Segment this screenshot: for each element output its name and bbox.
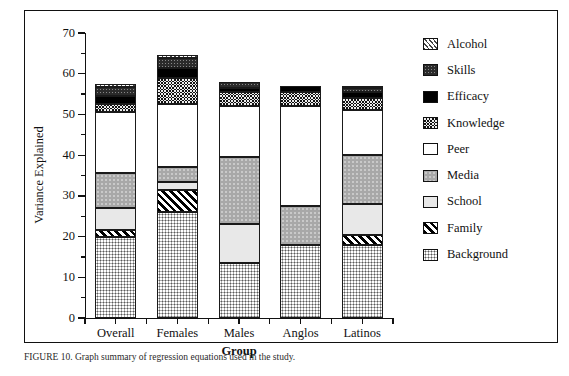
- bar-segment-males-skills[interactable]: [219, 82, 260, 88]
- legend-swatch-media-icon: [423, 170, 438, 182]
- y-tick-label-50: 50: [63, 108, 76, 121]
- legend-item-background[interactable]: Background: [423, 241, 553, 267]
- legend-label-family: Family: [447, 221, 482, 236]
- bar-segment-females-knowledge[interactable]: [157, 78, 198, 104]
- bar-segment-latinos-efficacy[interactable]: [342, 92, 383, 98]
- y-tick-label-10: 10: [63, 271, 76, 284]
- bar-segment-females-background[interactable]: [157, 212, 198, 318]
- bar-segment-overall-school[interactable]: [95, 208, 136, 230]
- legend-item-skills[interactable]: Skills: [423, 57, 553, 83]
- legend-swatch-background-icon: [423, 249, 438, 261]
- y-tick-label-70: 70: [63, 27, 76, 40]
- x-tick-label-latinos: Latinos: [343, 326, 381, 341]
- bar-segment-males-media[interactable]: [219, 157, 260, 224]
- y-axis-line: [85, 33, 86, 318]
- bar-segment-overall-efficacy[interactable]: [95, 96, 136, 104]
- bar-segment-latinos-media[interactable]: [342, 155, 383, 204]
- y-tick-70: [78, 32, 85, 33]
- y-tick-50: [78, 114, 85, 115]
- bar-segment-females-efficacy[interactable]: [157, 68, 198, 78]
- legend-swatch-peer-icon: [423, 143, 438, 155]
- bar-segment-anglos-media[interactable]: [280, 206, 321, 245]
- legend-label-background: Background: [447, 247, 508, 262]
- y-minor-tick-25: [81, 216, 85, 217]
- bar-latinos[interactable]: [342, 33, 383, 318]
- bar-segment-latinos-skills[interactable]: [342, 88, 383, 92]
- x-tick-label-males: Males: [224, 326, 255, 341]
- x-tick-females: [177, 318, 178, 324]
- bar-segment-latinos-knowledge[interactable]: [342, 98, 383, 110]
- bar-segment-overall-knowledge[interactable]: [95, 104, 136, 112]
- y-minor-tick-15: [81, 256, 85, 257]
- bar-segment-females-family[interactable]: [157, 190, 198, 212]
- y-tick-20: [78, 236, 85, 237]
- x-tick-males: [238, 318, 239, 324]
- bar-segment-anglos-efficacy[interactable]: [280, 86, 321, 92]
- legend-item-peer[interactable]: Peer: [423, 136, 553, 162]
- bar-segment-latinos-background[interactable]: [342, 245, 383, 318]
- bar-segment-overall-family[interactable]: [95, 230, 136, 236]
- y-minor-tick-45: [81, 134, 85, 135]
- legend-item-alcohol[interactable]: Alcohol: [423, 31, 553, 57]
- legend-label-alcohol: Alcohol: [447, 37, 487, 52]
- bar-segment-males-knowledge[interactable]: [219, 92, 260, 106]
- legend-label-media: Media: [447, 168, 479, 183]
- y-minor-tick-65: [81, 53, 85, 54]
- bar-segment-overall-alcohol[interactable]: [95, 84, 136, 87]
- bar-segment-overall-skills[interactable]: [95, 87, 136, 96]
- x-tick-overall: [115, 318, 116, 324]
- bar-segment-females-skills[interactable]: [157, 58, 198, 67]
- y-axis-title: Variance Explained: [32, 126, 47, 224]
- y-tick-label-0: 0: [69, 312, 75, 325]
- bar-segment-anglos-peer[interactable]: [280, 106, 321, 206]
- plot-area: Variance Explained Group 010203040506070…: [85, 33, 393, 318]
- bar-segment-overall-background[interactable]: [95, 237, 136, 318]
- bar-segment-latinos-family[interactable]: [342, 235, 383, 245]
- x-boundary-tick-2: [208, 318, 209, 324]
- bar-males[interactable]: [219, 33, 260, 318]
- bar-segment-latinos-school[interactable]: [342, 204, 383, 235]
- bar-overall[interactable]: [95, 33, 136, 318]
- legend-swatch-skills-icon: [423, 64, 438, 76]
- bar-segment-females-media[interactable]: [157, 167, 198, 181]
- chart-legend: AlcoholSkillsEfficacyKnowledgePeerMediaS…: [423, 31, 553, 268]
- y-tick-label-20: 20: [63, 230, 76, 243]
- x-boundary-tick-1: [146, 318, 147, 324]
- x-boundary-tick-5: [392, 318, 393, 324]
- legend-swatch-efficacy-icon: [423, 91, 438, 103]
- bar-segment-males-efficacy[interactable]: [219, 88, 260, 92]
- x-tick-anglos: [300, 318, 301, 324]
- bar-segment-males-background[interactable]: [219, 263, 260, 318]
- bar-females[interactable]: [157, 33, 198, 318]
- bar-segment-females-alcohol[interactable]: [157, 55, 198, 58]
- bar-segment-latinos-peer[interactable]: [342, 110, 383, 155]
- bar-segment-anglos-background[interactable]: [280, 245, 321, 318]
- bar-segment-females-peer[interactable]: [157, 104, 198, 167]
- legend-item-efficacy[interactable]: Efficacy: [423, 84, 553, 110]
- figure-frame: Variance Explained Group 010203040506070…: [24, 10, 558, 343]
- legend-swatch-family-icon: [423, 222, 438, 234]
- x-boundary-tick-4: [331, 318, 332, 324]
- y-tick-10: [78, 277, 85, 278]
- bar-segment-overall-peer[interactable]: [95, 112, 136, 173]
- y-minor-tick-5: [81, 297, 85, 298]
- bar-segment-overall-media[interactable]: [95, 173, 136, 208]
- legend-label-knowledge: Knowledge: [447, 116, 505, 131]
- bar-anglos[interactable]: [280, 33, 321, 318]
- legend-item-family[interactable]: Family: [423, 215, 553, 241]
- y-tick-30: [78, 195, 85, 196]
- y-minor-tick-55: [81, 93, 85, 94]
- bar-segment-males-peer[interactable]: [219, 106, 260, 157]
- bar-segment-latinos-alcohol[interactable]: [342, 86, 383, 88]
- x-tick-label-overall: Overall: [97, 326, 134, 341]
- y-minor-tick-35: [81, 175, 85, 176]
- legend-label-skills: Skills: [447, 63, 476, 78]
- bar-segment-males-school[interactable]: [219, 224, 260, 263]
- bar-segment-females-school[interactable]: [157, 182, 198, 190]
- legend-swatch-knowledge-icon: [423, 117, 438, 129]
- bar-segment-anglos-knowledge[interactable]: [280, 92, 321, 106]
- legend-item-knowledge[interactable]: Knowledge: [423, 110, 553, 136]
- legend-item-media[interactable]: Media: [423, 162, 553, 188]
- x-tick-latinos: [362, 318, 363, 324]
- legend-item-school[interactable]: School: [423, 189, 553, 215]
